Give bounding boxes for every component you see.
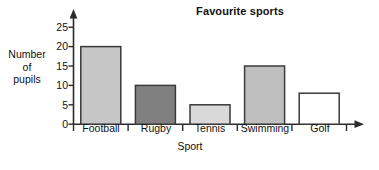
bar-football — [81, 47, 121, 125]
bar-swimming — [245, 66, 285, 124]
x-tick-label-golf: Golf — [292, 123, 348, 134]
bar-chart: Favourite sports Number of pupils 0 5 10… — [0, 0, 379, 170]
bar-series — [81, 47, 339, 125]
x-tick-label-tennis: Tennis — [182, 123, 238, 134]
x-axis-label: Sport — [130, 140, 250, 152]
bar-rugby — [135, 85, 175, 124]
x-tick-label-rugby: Rugby — [128, 123, 184, 134]
bar-golf — [299, 93, 339, 124]
x-tick-label-swimming: Swimming — [234, 123, 296, 134]
y-axis-arrow-icon — [70, 9, 78, 19]
x-axis-arrow-icon — [355, 120, 365, 128]
x-tick-label-football: Football — [73, 123, 129, 134]
